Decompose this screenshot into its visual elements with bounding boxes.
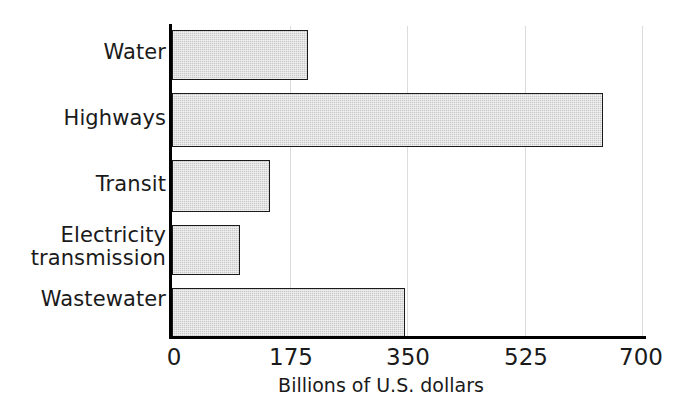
x-tick-label-0: 0 xyxy=(167,344,182,370)
category-label-wastewater: Wastewater xyxy=(41,288,166,311)
gridline-700 xyxy=(642,26,643,337)
category-label-water: Water xyxy=(103,41,166,64)
x-axis-line xyxy=(169,336,646,339)
x-tick-label-700: 700 xyxy=(619,344,663,370)
gridline-525 xyxy=(525,26,526,337)
bar-water xyxy=(172,30,308,80)
x-tick-label-175: 175 xyxy=(269,344,313,370)
x-tick-label-525: 525 xyxy=(504,344,548,370)
category-label-highways: Highways xyxy=(64,107,166,130)
gridline-350 xyxy=(407,26,408,337)
x-tick-label-350: 350 xyxy=(386,344,430,370)
bar-electricity-transmission xyxy=(172,225,240,275)
category-label-electricity-transmission: Electricity transmission xyxy=(31,224,166,270)
bar-transit xyxy=(172,160,270,212)
bar-wastewater xyxy=(172,288,405,338)
bar-highways xyxy=(172,93,603,147)
y-axis-line xyxy=(169,24,172,339)
x-axis-title: Billions of U.S. dollars xyxy=(0,374,700,396)
bar-chart: Water Highways Transit Electricity trans… xyxy=(0,0,700,414)
category-label-transit: Transit xyxy=(96,173,166,196)
plot-area xyxy=(172,26,643,337)
